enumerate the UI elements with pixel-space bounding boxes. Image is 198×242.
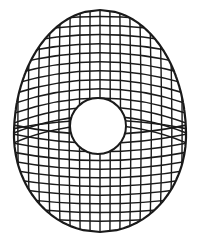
grid-line xyxy=(169,5,171,237)
grid-line xyxy=(28,5,30,237)
center-hole xyxy=(70,98,126,154)
wireframe-egg-drawing xyxy=(0,0,198,242)
wireframe-egg-figure xyxy=(0,0,198,242)
